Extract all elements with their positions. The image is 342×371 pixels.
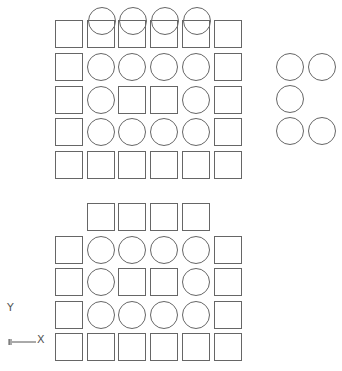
square-shape[interactable] xyxy=(56,302,83,329)
square-shape[interactable] xyxy=(183,204,210,231)
lower-block xyxy=(56,204,242,361)
circle-shape[interactable] xyxy=(88,54,115,81)
circle-shape[interactable] xyxy=(183,269,210,296)
square-shape[interactable] xyxy=(88,152,115,179)
square-shape[interactable] xyxy=(56,119,83,146)
circle-shape[interactable] xyxy=(183,237,210,264)
square-shape[interactable] xyxy=(151,204,178,231)
square-shape[interactable] xyxy=(215,87,242,114)
circle-shape[interactable] xyxy=(88,87,115,114)
square-shape[interactable] xyxy=(215,152,242,179)
square-shape[interactable] xyxy=(151,152,178,179)
square-shape[interactable] xyxy=(56,87,83,114)
ucs-x-label: X xyxy=(37,333,45,346)
ucs-icon xyxy=(9,339,36,345)
circle-shape[interactable] xyxy=(151,119,178,146)
circle-shape[interactable] xyxy=(88,119,115,146)
square-shape[interactable] xyxy=(119,87,146,114)
upper-block xyxy=(56,8,242,179)
circle-shape[interactable] xyxy=(183,302,210,329)
square-shape[interactable] xyxy=(88,204,115,231)
square-shape[interactable] xyxy=(151,87,178,114)
drawing-canvas[interactable] xyxy=(0,0,342,371)
square-shape[interactable] xyxy=(56,21,83,48)
circle-shape[interactable] xyxy=(277,86,304,113)
square-shape[interactable] xyxy=(119,269,146,296)
square-shape[interactable] xyxy=(215,54,242,81)
square-shape[interactable] xyxy=(56,269,83,296)
square-shape[interactable] xyxy=(215,269,242,296)
square-shape[interactable] xyxy=(151,269,178,296)
side-circle-group xyxy=(277,54,336,145)
square-shape[interactable] xyxy=(119,152,146,179)
square-shape[interactable] xyxy=(215,334,242,361)
square-shape[interactable] xyxy=(183,334,210,361)
square-shape[interactable] xyxy=(151,334,178,361)
square-shape[interactable] xyxy=(183,152,210,179)
circle-shape[interactable] xyxy=(88,269,115,296)
circle-shape[interactable] xyxy=(119,237,146,264)
circle-shape[interactable] xyxy=(183,87,210,114)
circle-shape[interactable] xyxy=(151,54,178,81)
square-shape[interactable] xyxy=(215,237,242,264)
circle-shape[interactable] xyxy=(88,302,115,329)
circle-shape[interactable] xyxy=(151,302,178,329)
square-shape[interactable] xyxy=(119,204,146,231)
circle-shape[interactable] xyxy=(151,237,178,264)
circle-shape[interactable] xyxy=(119,54,146,81)
circle-shape[interactable] xyxy=(309,54,336,81)
circle-shape[interactable] xyxy=(277,54,304,81)
circle-shape[interactable] xyxy=(183,54,210,81)
square-shape[interactable] xyxy=(56,54,83,81)
square-shape[interactable] xyxy=(215,21,242,48)
square-shape[interactable] xyxy=(56,334,83,361)
circle-shape[interactable] xyxy=(88,237,115,264)
circle-shape[interactable] xyxy=(119,119,146,146)
circle-shape[interactable] xyxy=(119,302,146,329)
square-shape[interactable] xyxy=(56,237,83,264)
circle-shape[interactable] xyxy=(309,118,336,145)
square-shape[interactable] xyxy=(88,334,115,361)
square-shape[interactable] xyxy=(119,334,146,361)
circle-shape[interactable] xyxy=(183,119,210,146)
square-shape[interactable] xyxy=(215,119,242,146)
circle-shape[interactable] xyxy=(277,118,304,145)
square-shape[interactable] xyxy=(215,302,242,329)
ucs-y-label: Y xyxy=(7,301,14,314)
square-shape[interactable] xyxy=(56,152,83,179)
